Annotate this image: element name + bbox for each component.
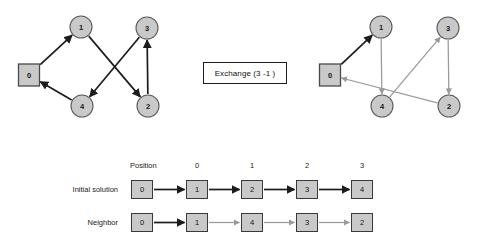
left-graph-edge-4-to-0 bbox=[40, 82, 71, 100]
position-number-2: 2 bbox=[297, 161, 317, 170]
left-graph-node-4 bbox=[71, 95, 93, 117]
sequence-cell-r0-c3: 3 bbox=[296, 180, 318, 199]
exchange-caption-box: Exchange (3 -1 ) bbox=[203, 62, 287, 84]
left-graph-node-2 bbox=[137, 95, 159, 117]
position-number-1: 1 bbox=[242, 161, 262, 170]
exchange-caption-text: Exchange (3 -1 ) bbox=[215, 69, 276, 78]
right-graph-edge-3-to-2 bbox=[448, 40, 449, 94]
sequence-cell-r0-c4: 4 bbox=[351, 180, 373, 199]
left-graph-edge-2-to-3 bbox=[147, 40, 148, 94]
right-graph-edge-4-to-3 bbox=[390, 37, 440, 97]
right-graph-node-0 bbox=[320, 64, 341, 86]
sequence-cell-r1-c3: 3 bbox=[296, 213, 318, 232]
position-number-3: 3 bbox=[352, 161, 372, 170]
sequence-row-label-1: Neighbor bbox=[28, 218, 118, 227]
right-graph-edge-0-to-1 bbox=[341, 35, 372, 64]
right-graph-edge-1-to-4 bbox=[381, 39, 382, 94]
left-graph-edge-0-to-1 bbox=[40, 35, 72, 64]
left-graph-nodes: 01342 bbox=[19, 16, 160, 117]
sequence-cell-r1-c0: 0 bbox=[131, 213, 153, 232]
sequence-cell-r1-c4: 2 bbox=[351, 213, 373, 232]
position-number-0: 0 bbox=[187, 161, 207, 170]
right-graph-node-4 bbox=[371, 95, 393, 117]
sequence-row-label-0: Initial solution bbox=[28, 185, 118, 194]
left-graph-edges bbox=[40, 35, 148, 100]
sequence-cell-r1-c2: 4 bbox=[241, 213, 263, 232]
right-graph-edges bbox=[341, 35, 449, 103]
right-graph-nodes: 01342 bbox=[320, 16, 461, 117]
sequence-cell-r0-c0: 0 bbox=[131, 180, 153, 199]
figure-root: 01342 01342 Exchange (3 -1 ) Position012… bbox=[0, 0, 479, 249]
left-graph-node-1 bbox=[70, 16, 92, 38]
right-graph-node-2 bbox=[438, 95, 460, 117]
right-graph-node-3 bbox=[437, 17, 459, 39]
right-graph-node-1 bbox=[370, 16, 392, 38]
sequence-cell-r1-c1: 1 bbox=[186, 213, 208, 232]
sequence-cell-r0-c1: 1 bbox=[186, 180, 208, 199]
left-graph-node-0 bbox=[19, 64, 40, 86]
sequence-cell-r0-c2: 2 bbox=[241, 180, 263, 199]
position-header-label: Position bbox=[130, 161, 157, 170]
diagram-canvas: 01342 01342 bbox=[0, 0, 479, 249]
left-graph-node-3 bbox=[136, 17, 158, 39]
